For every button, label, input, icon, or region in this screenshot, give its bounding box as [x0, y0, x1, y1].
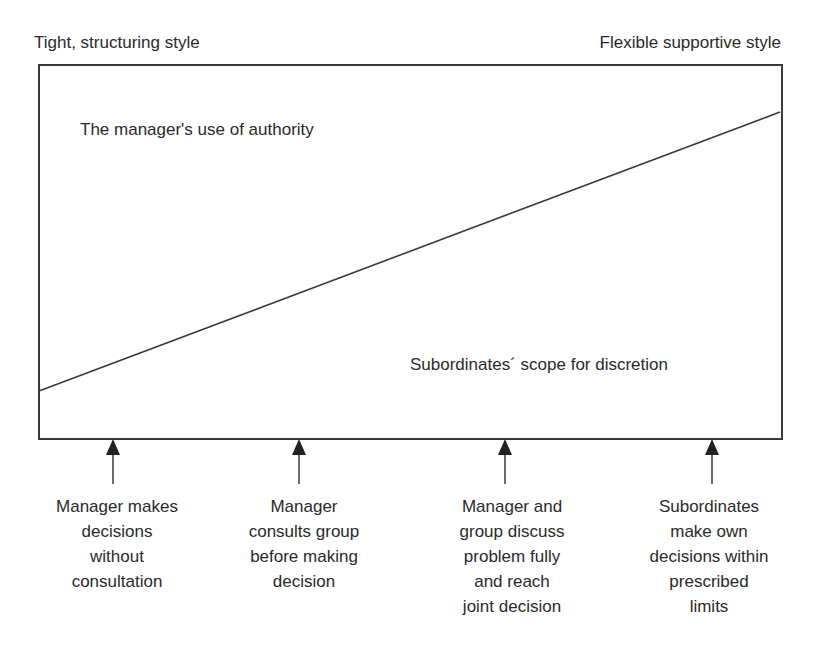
- caption-line: consultation: [32, 569, 202, 594]
- caption-joint-decision: Manager and group discuss problem fully …: [427, 494, 597, 619]
- caption-line: before making: [219, 544, 389, 569]
- authority-discretion-divider-line: [39, 112, 780, 391]
- caption-line: Manager: [219, 494, 389, 519]
- arrow-2-icon: [292, 439, 306, 484]
- caption-line: decision: [219, 569, 389, 594]
- caption-line: group discuss: [427, 519, 597, 544]
- caption-line: decisions: [32, 519, 202, 544]
- caption-line: prescribed: [624, 569, 794, 594]
- caption-line: decisions within: [624, 544, 794, 569]
- caption-line: and reach: [427, 569, 597, 594]
- arrow-3-icon: [498, 439, 512, 484]
- subordinates-scope-for-discretion-label: Subordinates´ scope for discretion: [410, 355, 668, 375]
- caption-line: consults group: [219, 519, 389, 544]
- caption-subordinates-decide: Subordinates make own decisions within p…: [624, 494, 794, 619]
- caption-manager-consults: Manager consults group before making dec…: [219, 494, 389, 594]
- caption-line: without: [32, 544, 202, 569]
- caption-line: problem fully: [427, 544, 597, 569]
- caption-line: Manager makes: [32, 494, 202, 519]
- caption-line: make own: [624, 519, 794, 544]
- arrow-4-icon: [705, 439, 719, 484]
- managers-use-of-authority-label: The manager's use of authority: [80, 120, 314, 140]
- arrow-1-icon: [106, 439, 120, 484]
- caption-line: Subordinates: [624, 494, 794, 519]
- caption-line: joint decision: [427, 594, 597, 619]
- caption-manager-decides: Manager makes decisions without consulta…: [32, 494, 202, 594]
- caption-line: Manager and: [427, 494, 597, 519]
- caption-line: limits: [624, 594, 794, 619]
